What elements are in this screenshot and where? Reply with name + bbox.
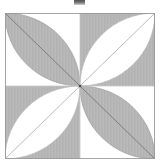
page-title: Four-petal rosette geometric figure bbox=[0, 0, 1, 1]
cropped-text-fragment-icon bbox=[74, 0, 85, 5]
center-point bbox=[79, 85, 82, 88]
four-petal-rosette-figure bbox=[5, 13, 155, 159]
figure-description: Square divided into a 2x2 grid of equal … bbox=[0, 0, 1, 1]
figure-caption bbox=[0, 0, 1, 1]
figure-canvas: Four-petal rosette geometric figure Squa… bbox=[0, 0, 162, 165]
rosette-svg bbox=[5, 13, 155, 159]
